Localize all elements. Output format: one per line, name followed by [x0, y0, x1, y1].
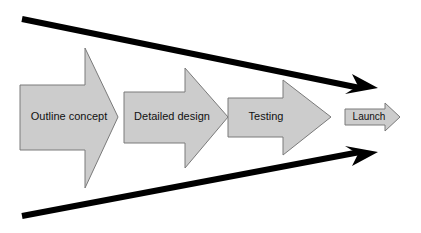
- stage-launch-label: Launch: [353, 111, 386, 122]
- diagram-canvas: Outline concept Detailed design Testing …: [0, 0, 421, 233]
- process-funnel-diagram: Outline concept Detailed design Testing …: [0, 0, 421, 233]
- stage-testing-label: Testing: [249, 110, 284, 122]
- stage-detailed-design-label: Detailed design: [134, 110, 210, 122]
- stage-outline-concept-label: Outline concept: [31, 110, 107, 122]
